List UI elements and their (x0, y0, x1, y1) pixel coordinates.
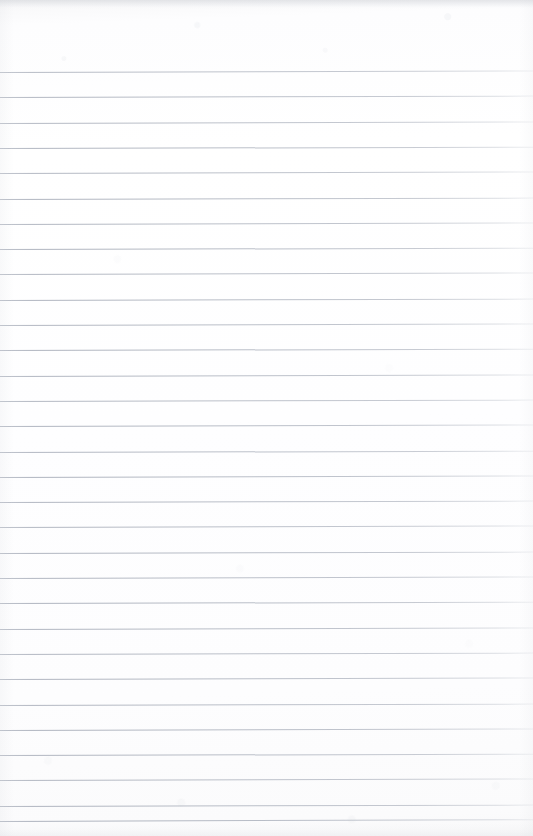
rule-line (0, 501, 533, 503)
ruled-lines-layer (0, 0, 533, 836)
rule-line (0, 450, 533, 452)
rule-line (0, 728, 533, 731)
rule-line (0, 526, 533, 528)
rule-line (0, 96, 533, 98)
scanned-page (0, 0, 533, 836)
rule-line (0, 172, 533, 174)
rule-line (0, 248, 533, 250)
rule-line (0, 147, 533, 149)
rule-line (0, 374, 533, 376)
rule-line (0, 779, 533, 781)
rule-line (0, 703, 533, 705)
rule-line (0, 399, 533, 401)
rule-line (0, 627, 533, 629)
rule-line (0, 602, 533, 604)
rule-line (0, 349, 533, 351)
rule-line (0, 324, 533, 326)
rule-line (0, 576, 533, 579)
rule-line (0, 754, 533, 756)
rule-line (0, 222, 533, 225)
rule-line (0, 71, 533, 73)
rule-line (0, 551, 533, 553)
rule-line (0, 804, 533, 806)
rule-line (0, 678, 533, 680)
rule-line (0, 273, 533, 275)
rule-line (0, 475, 533, 477)
rule-line (0, 819, 533, 822)
rule-line (0, 121, 533, 124)
rule-line (0, 197, 533, 199)
rule-line (0, 425, 533, 428)
rule-line (0, 652, 533, 654)
rule-line (0, 298, 533, 300)
